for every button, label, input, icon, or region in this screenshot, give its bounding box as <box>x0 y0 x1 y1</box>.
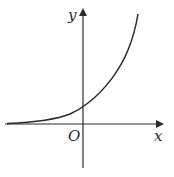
y-axis-label: y <box>67 6 77 24</box>
graph-canvas: y x O <box>0 0 174 177</box>
exponential-curve <box>7 14 138 124</box>
x-axis-label: x <box>154 127 163 145</box>
origin-label: O <box>68 127 80 145</box>
